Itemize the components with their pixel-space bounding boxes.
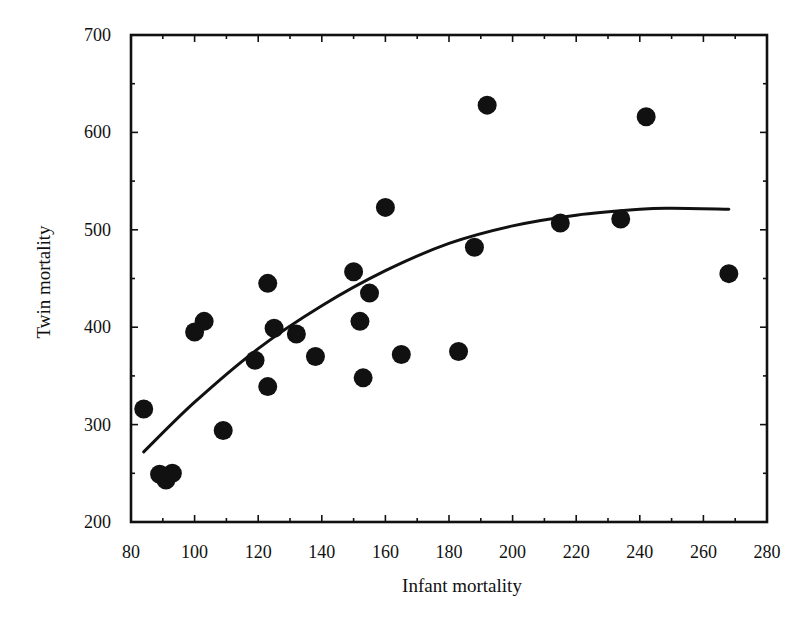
x-tick-label: 180 — [436, 542, 463, 562]
x-tick-label: 280 — [754, 542, 781, 562]
data-point — [195, 312, 214, 331]
x-tick-label: 260 — [690, 542, 717, 562]
data-point — [258, 377, 277, 396]
quadratic-fit-line — [144, 208, 729, 452]
data-point — [265, 319, 284, 338]
y-tick-label: 600 — [84, 122, 111, 142]
x-tick-label: 200 — [499, 542, 526, 562]
x-tick-label: 160 — [372, 542, 399, 562]
y-axis-title: Twin mortality — [33, 225, 54, 339]
y-tick-label: 700 — [84, 25, 111, 45]
fit-curve — [144, 208, 729, 452]
scatter-chart: 80100120140160180200220240260280 2003004… — [0, 0, 808, 628]
data-point — [306, 347, 325, 366]
data-point — [719, 264, 738, 283]
data-point — [344, 262, 363, 281]
y-tick-label: 200 — [84, 512, 111, 532]
x-tick-label: 120 — [245, 542, 272, 562]
plot-frame — [131, 35, 767, 522]
data-point — [376, 198, 395, 217]
data-point — [163, 464, 182, 483]
data-point — [392, 345, 411, 364]
x-tick-label: 80 — [122, 542, 140, 562]
data-point — [449, 342, 468, 361]
axis-ticks — [131, 35, 767, 522]
data-point — [354, 368, 373, 387]
data-point — [551, 213, 570, 232]
x-axis-tick-labels: 80100120140160180200220240260280 — [122, 542, 781, 562]
data-point — [478, 96, 497, 115]
x-tick-label: 140 — [308, 542, 335, 562]
data-point — [287, 325, 306, 344]
data-point — [465, 238, 484, 257]
data-point — [134, 400, 153, 419]
data-point — [360, 284, 379, 303]
data-point — [258, 274, 277, 293]
y-tick-label: 500 — [84, 220, 111, 240]
y-axis-tick-labels: 200300400500600700 — [84, 25, 111, 532]
x-tick-label: 240 — [626, 542, 653, 562]
x-axis-title: Infant mortality — [402, 575, 522, 596]
plot-border — [131, 35, 767, 522]
y-tick-label: 400 — [84, 317, 111, 337]
data-point — [246, 351, 265, 370]
data-point — [637, 107, 656, 126]
data-point — [350, 312, 369, 331]
x-tick-label: 100 — [181, 542, 208, 562]
data-points — [134, 96, 738, 490]
y-tick-label: 300 — [84, 415, 111, 435]
data-point — [214, 421, 233, 440]
data-point — [611, 210, 630, 229]
x-tick-label: 220 — [563, 542, 590, 562]
